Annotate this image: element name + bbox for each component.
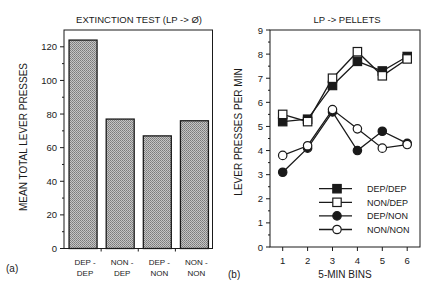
data-point (353, 48, 361, 56)
y-tick-label: 5 (258, 121, 263, 132)
category-label: NON - (185, 258, 208, 267)
legend-label: DEP/NON (367, 211, 408, 221)
y-tick-label: 40 (46, 176, 57, 187)
data-point (303, 142, 311, 150)
x-tick-label: 3 (330, 255, 335, 266)
legend-marker (333, 185, 341, 193)
figure: EXTINCTION TEST (LP -> Ø) MEAN TOTAL LEV… (0, 0, 443, 300)
legend-item: NON/DEP (319, 198, 408, 208)
y-tick-label: 4 (258, 145, 263, 156)
y-tick-label: 60 (46, 142, 57, 153)
chart-b-y-axis: 0123456789 (258, 25, 270, 253)
data-point (328, 74, 336, 82)
chart-b-x-axis: 123456 (280, 247, 410, 266)
bar-chart-panel: EXTINCTION TEST (LP -> Ø) MEAN TOTAL LEV… (6, 14, 213, 278)
legend-item: DEP/NON (319, 211, 408, 221)
x-tick-label: 2 (305, 255, 310, 266)
series-line (283, 112, 408, 172)
data-point (279, 168, 287, 176)
bar (143, 136, 171, 249)
category-label: NON (188, 269, 206, 278)
chart-a-bars (69, 40, 208, 248)
legend-marker (333, 225, 341, 233)
data-point (353, 125, 361, 133)
y-tick-label: 0 (52, 243, 57, 254)
series-dep-non (279, 108, 412, 177)
data-point (403, 55, 411, 63)
data-point (279, 151, 287, 159)
category-label: NON (150, 269, 168, 278)
series-non-non (279, 105, 412, 159)
panel-b-label: (b) (228, 269, 240, 280)
chart-b-legend: DEP/DEPNON/DEPDEP/NONNON/NON (319, 184, 410, 235)
data-point (378, 144, 386, 152)
x-tick-label: 6 (405, 255, 410, 266)
y-tick-label: 6 (258, 97, 263, 108)
legend-marker (333, 212, 341, 220)
series-line (283, 57, 408, 122)
y-tick-label: 80 (46, 109, 57, 120)
chart-b-series (279, 48, 412, 177)
y-tick-label: 3 (258, 169, 263, 180)
y-tick-label: 7 (258, 73, 263, 84)
category-label: NON - (111, 258, 134, 267)
category-label: DEP (114, 269, 130, 278)
series-non-dep (279, 48, 412, 126)
bar (106, 119, 134, 248)
y-tick-label: 1 (258, 217, 263, 228)
series-dep-dep (279, 52, 412, 126)
data-point (378, 127, 386, 135)
data-point (353, 57, 361, 65)
chart-b-title: LP -> PELLETS (313, 14, 380, 25)
x-tick-label: 5 (380, 255, 385, 266)
legend-item: NON/NON (319, 225, 410, 235)
series-line (283, 52, 408, 122)
data-point (279, 110, 287, 118)
data-point (328, 105, 336, 113)
bar (180, 121, 208, 249)
chart-b-xlabel: 5-MIN BINS (318, 269, 372, 280)
x-tick-label: 4 (355, 255, 360, 266)
y-tick-label: 120 (41, 41, 57, 52)
data-point (353, 146, 361, 154)
category-label: DEP (77, 269, 93, 278)
y-tick-label: 100 (41, 75, 57, 86)
chart-a-x-axis: DEP -DEPNON -DEPDEP -NONNON -NON (74, 249, 208, 278)
chart-a-y-axis: 020406080100120 (41, 41, 64, 254)
chart-a-title: EXTINCTION TEST (LP -> Ø) (76, 14, 202, 25)
line-chart-panel: LP -> PELLETS LEVER PRESSES PER MIN 5-MI… (228, 14, 420, 280)
panel-a-label: (a) (6, 263, 18, 274)
legend-label: NON/DEP (367, 198, 408, 208)
legend-label: NON/NON (367, 225, 410, 235)
bar (69, 40, 97, 248)
y-tick-label: 2 (258, 193, 263, 204)
legend-marker (333, 198, 341, 206)
category-label: DEP - (74, 258, 96, 267)
y-tick-label: 8 (258, 49, 263, 60)
category-label: DEP - (149, 258, 171, 267)
chart-a-ylabel: MEAN TOTAL LEVER PRESSES (18, 63, 29, 211)
y-tick-label: 0 (258, 242, 263, 253)
y-tick-label: 9 (258, 25, 263, 36)
data-point (403, 140, 411, 148)
data-point (378, 72, 386, 80)
legend-label: DEP/DEP (367, 184, 407, 194)
x-tick-label: 1 (280, 255, 285, 266)
chart-b-ylabel: LEVER PRESSES PER MIN (233, 68, 244, 195)
data-point (303, 117, 311, 125)
y-tick-label: 20 (46, 209, 57, 220)
series-line (283, 110, 408, 156)
legend-item: DEP/DEP (319, 184, 407, 194)
